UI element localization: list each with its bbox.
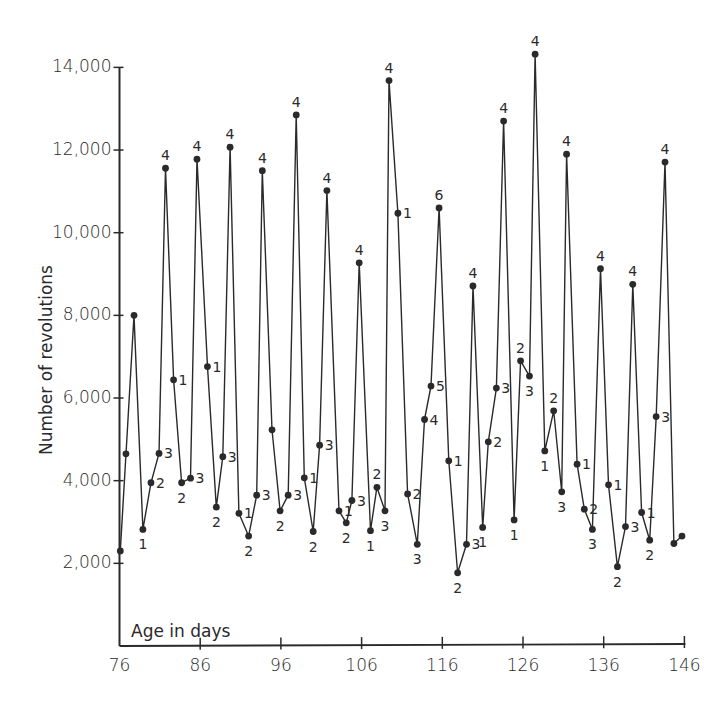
point-label: 1	[403, 205, 412, 221]
data-point	[227, 144, 234, 151]
line-chart: 2,0004,0006,0008,00010,00012,00014,000 7…	[0, 0, 723, 704]
data-point	[236, 510, 243, 517]
data-point	[485, 438, 492, 445]
data-point	[117, 548, 124, 555]
data-point	[526, 373, 533, 380]
data-point	[336, 507, 343, 514]
data-point	[293, 112, 300, 119]
x-tick-label: 126	[507, 655, 539, 675]
data-point	[589, 526, 596, 533]
data-point	[382, 507, 389, 514]
point-label: 4	[430, 412, 439, 428]
y-tick-label: 4,000	[63, 470, 112, 490]
x-tick-label: 96	[270, 655, 292, 675]
data-point	[414, 541, 421, 548]
point-label: 3	[357, 493, 366, 509]
point-label: 4	[355, 242, 364, 258]
point-label: 3	[557, 499, 566, 515]
point-label: 3	[325, 437, 334, 453]
data-point	[671, 540, 678, 547]
x-axis-label: Age in days	[131, 621, 230, 641]
data-point	[679, 533, 686, 540]
data-point	[404, 491, 411, 498]
data-point	[170, 376, 177, 383]
data-point	[622, 523, 629, 530]
point-label: 4	[322, 170, 331, 186]
point-label: 1	[582, 456, 591, 472]
data-point	[277, 507, 284, 514]
point-label: 2	[493, 434, 502, 450]
point-label: 1	[179, 372, 188, 388]
point-label: 2	[645, 547, 654, 563]
point-labels: 1234123412341234234123412341234123456123…	[138, 33, 670, 596]
data-point	[162, 165, 169, 172]
data-point	[301, 474, 308, 481]
data-point	[316, 442, 323, 449]
point-label: 1	[647, 505, 656, 521]
data-point	[187, 475, 194, 482]
point-label: 4	[628, 263, 637, 279]
x-tick-label: 146	[668, 655, 700, 675]
point-label: 1	[244, 505, 253, 521]
point-label: 4	[385, 60, 394, 76]
y-tick-label: 6,000	[63, 387, 112, 407]
y-tick-label: 2,000	[63, 552, 112, 572]
data-point	[479, 524, 486, 531]
data-point	[194, 156, 201, 163]
point-label: 3	[196, 470, 205, 486]
data-point	[395, 210, 402, 217]
point-label: 3	[630, 519, 639, 535]
point-label: 3	[525, 383, 534, 399]
data-point	[269, 426, 276, 433]
point-label: 3	[413, 551, 422, 567]
y-tick-label: 8,000	[63, 304, 112, 324]
x-tick-label: 116	[426, 655, 458, 675]
x-tick-label: 76	[109, 655, 131, 675]
data-point	[500, 118, 507, 125]
data-point	[259, 167, 266, 174]
data-point	[605, 481, 612, 488]
data-point	[638, 509, 645, 516]
point-label: 4	[292, 94, 301, 110]
data-point	[597, 265, 604, 272]
data-point	[574, 461, 581, 468]
point-label: 1	[540, 458, 549, 474]
y-tick-label: 14,000	[52, 56, 111, 76]
y-axis-label: Number of revolutions	[36, 265, 56, 455]
data-point	[532, 51, 539, 58]
point-label: 2	[613, 574, 622, 590]
x-tick-label: 106	[345, 655, 377, 675]
point-label: 1	[478, 534, 487, 550]
data-point	[454, 569, 461, 576]
x-axis-ticks: 768696106116126136146	[109, 636, 701, 675]
point-label: 2	[589, 501, 598, 517]
x-tick-label: 136	[587, 655, 619, 675]
point-label: 2	[516, 340, 525, 356]
data-point	[421, 416, 428, 423]
point-label: 1	[212, 359, 221, 375]
data-point	[131, 312, 138, 319]
point-label: 4	[661, 141, 670, 157]
data-point	[629, 281, 636, 288]
data-point	[148, 479, 155, 486]
point-label: 2	[453, 580, 462, 596]
point-label: 3	[293, 487, 302, 503]
y-axis-ticks: 2,0004,0006,0008,00010,00012,00014,000	[52, 56, 123, 572]
point-label: 3	[381, 518, 390, 534]
point-label: 4	[469, 265, 478, 281]
data-point	[445, 457, 452, 464]
point-label: 3	[661, 409, 670, 425]
data-point	[219, 453, 226, 460]
data-point	[343, 519, 350, 526]
point-label: 4	[562, 133, 571, 149]
point-label: 4	[226, 126, 235, 142]
point-label: 4	[193, 138, 202, 154]
data-point	[436, 205, 443, 212]
data-point	[463, 541, 470, 548]
point-label: 2	[212, 514, 221, 530]
data-point	[123, 450, 130, 457]
data-point	[563, 151, 570, 158]
point-label: 4	[258, 150, 267, 166]
data-point	[323, 187, 330, 194]
point-label: 2	[309, 539, 318, 555]
